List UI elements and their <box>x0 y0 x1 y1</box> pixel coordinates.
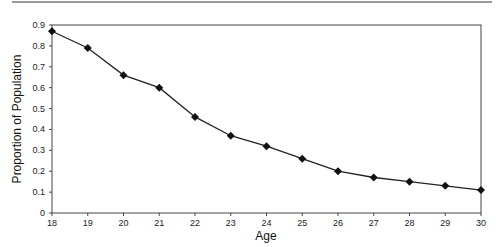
x-tick-label: 19 <box>83 218 93 228</box>
data-point-marker <box>298 155 306 163</box>
x-tick-label: 22 <box>190 218 200 228</box>
line-chart: 00.10.20.30.40.50.60.70.80.9181920212223… <box>0 0 500 247</box>
x-tick-label: 24 <box>261 218 271 228</box>
x-tick-label: 28 <box>404 218 414 228</box>
data-line <box>52 31 481 190</box>
y-tick-label: 0.1 <box>32 187 45 197</box>
x-tick-label: 25 <box>297 218 307 228</box>
x-tick-label: 30 <box>476 218 486 228</box>
x-tick-label: 26 <box>333 218 343 228</box>
x-tick-label: 29 <box>440 218 450 228</box>
plot-area: 00.10.20.30.40.50.60.70.80.9181920212223… <box>32 20 486 228</box>
data-point-marker <box>477 186 485 194</box>
x-tick-label: 21 <box>154 218 164 228</box>
data-point-marker <box>406 178 414 186</box>
y-tick-label: 0.4 <box>32 124 45 134</box>
y-tick-label: 0.5 <box>32 104 45 114</box>
y-axis-title: Proportion of Population <box>10 55 24 184</box>
data-point-marker <box>334 167 342 175</box>
data-point-marker <box>227 132 235 140</box>
plot-frame <box>52 25 481 213</box>
y-tick-label: 0.6 <box>32 83 45 93</box>
x-tick-label: 23 <box>226 218 236 228</box>
y-tick-label: 0.9 <box>32 20 45 30</box>
data-point-marker <box>263 142 271 150</box>
y-tick-label: 0.7 <box>32 62 45 72</box>
data-point-marker <box>441 182 449 190</box>
y-tick-label: 0.3 <box>32 145 45 155</box>
y-tick-label: 0 <box>40 208 45 218</box>
data-point-marker <box>48 27 56 35</box>
x-tick-label: 18 <box>47 218 57 228</box>
y-tick-label: 0.2 <box>32 166 45 176</box>
data-point-marker <box>370 173 378 181</box>
x-axis-title: Age <box>255 229 277 243</box>
y-tick-label: 0.8 <box>32 41 45 51</box>
x-tick-label: 27 <box>369 218 379 228</box>
x-tick-label: 20 <box>118 218 128 228</box>
